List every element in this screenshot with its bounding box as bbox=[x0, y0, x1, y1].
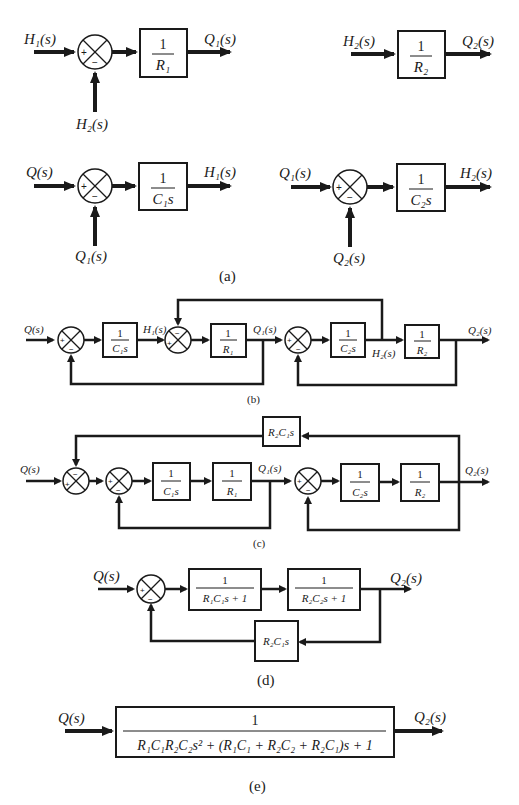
svg-text:1: 1 bbox=[225, 327, 231, 339]
svg-text:R₂C₁s: R₂C₁s bbox=[267, 426, 294, 438]
svg-text:R₁C₁R₂C₂s² + (R₁C₁ + R₂C₂ + R₂: R₁C₁R₂C₂s² + (R₁C₁ + R₂C₂ + R₂C₁)s + 1 bbox=[136, 738, 372, 754]
summing-junction: + − bbox=[63, 468, 89, 494]
svg-text:1: 1 bbox=[321, 574, 327, 586]
svg-text:1: 1 bbox=[418, 39, 425, 54]
panel-a: H₁(s) + − H₂(s) 1 R₁ Q₁(s) H₂(s) 1 bbox=[23, 29, 494, 285]
svg-text:−: − bbox=[92, 57, 98, 68]
svg-text:−: − bbox=[73, 470, 78, 479]
svg-text:R₂: R₂ bbox=[416, 344, 428, 356]
svg-text:1: 1 bbox=[222, 574, 228, 586]
signal-label: Q(s) bbox=[58, 710, 85, 727]
signal-label: Q₂(s) bbox=[414, 709, 446, 726]
signal-label: H₂(s) bbox=[342, 33, 375, 50]
summing-junction: + − bbox=[333, 170, 367, 204]
signal-label: Q₂(s) bbox=[462, 33, 494, 50]
svg-text:1: 1 bbox=[117, 327, 123, 339]
svg-text:1: 1 bbox=[345, 327, 351, 339]
svg-text:C₁s: C₁s bbox=[112, 342, 127, 354]
svg-text:+: + bbox=[81, 47, 87, 58]
signal-label: Q₁(s) bbox=[279, 165, 311, 182]
panel-a-block-1: H₁(s) + − H₂(s) 1 R₁ Q₁(s) bbox=[23, 29, 236, 133]
svg-text:+: + bbox=[140, 586, 145, 595]
panel-e: Q(s) 1 R₁C₁R₂C₂s² + (R₁C₁ + R₂C₂ + R₂C₁)… bbox=[58, 707, 446, 795]
svg-text:+: + bbox=[167, 339, 172, 348]
signal-label: H₂(s) bbox=[75, 116, 108, 133]
svg-text:+: + bbox=[108, 477, 113, 486]
svg-text:+: + bbox=[60, 336, 65, 345]
svg-text:1: 1 bbox=[168, 467, 174, 479]
summing-junction: + − bbox=[295, 468, 321, 495]
signal-label: H₂(s) bbox=[459, 165, 492, 182]
panel-a-block-4: Q₁(s) + − Q₂(s) 1 C₂s H₂(s) bbox=[279, 164, 492, 267]
svg-text:+: + bbox=[287, 336, 292, 345]
svg-text:R₁: R₁ bbox=[155, 57, 170, 73]
svg-text:−: − bbox=[148, 595, 153, 604]
svg-text:−: − bbox=[296, 345, 301, 354]
panel-caption: (a) bbox=[219, 268, 236, 285]
panel-a-block-2: H₂(s) 1 R₂ Q₂(s) bbox=[342, 31, 494, 78]
svg-text:C₂s: C₂s bbox=[410, 192, 431, 208]
panel-a-block-3: Q(s) + − Q₁(s) 1 C₁s H₁(s) bbox=[26, 163, 236, 265]
summing-junction: + − bbox=[165, 327, 191, 353]
svg-text:1: 1 bbox=[419, 328, 425, 340]
svg-text:+: + bbox=[81, 181, 87, 192]
svg-text:+: + bbox=[297, 477, 302, 486]
summing-junction: + − bbox=[78, 35, 112, 69]
svg-text:−: − bbox=[175, 329, 180, 338]
svg-text:−: − bbox=[306, 486, 311, 495]
svg-text:C₂s: C₂s bbox=[352, 486, 367, 498]
svg-text:−: − bbox=[347, 192, 353, 203]
signal-label: Q₁(s) bbox=[204, 31, 236, 48]
summing-junction: + − bbox=[106, 468, 132, 495]
panel-caption: (e) bbox=[249, 778, 266, 795]
block-diagram-figure: H₁(s) + − H₂(s) 1 R₁ Q₁(s) H₂(s) 1 bbox=[0, 0, 519, 805]
svg-text:R₁: R₁ bbox=[226, 485, 238, 497]
panel-caption: (d) bbox=[257, 672, 275, 689]
signal-label: Q₁(s) bbox=[258, 462, 282, 475]
svg-text:C₂s: C₂s bbox=[340, 342, 355, 354]
signal-label: Q₁(s) bbox=[75, 248, 107, 265]
panel-d: Q(s) + − 1 R₁C₁s + 1 1 R₂C₂s + 1 Q₂(s) R… bbox=[93, 568, 422, 689]
signal-label: Q₂(s) bbox=[465, 464, 489, 477]
signal-label: Q(s) bbox=[24, 323, 44, 336]
signal-label: Q(s) bbox=[26, 164, 53, 181]
svg-text:C₁s: C₁s bbox=[163, 485, 178, 497]
signal-label: Q₂(s) bbox=[390, 570, 422, 587]
summing-junction: + − bbox=[58, 327, 84, 354]
signal-label: Q₂(s) bbox=[333, 250, 365, 267]
svg-text:1: 1 bbox=[229, 467, 235, 479]
summing-junction: + − bbox=[78, 169, 112, 203]
panel-caption: (b) bbox=[247, 393, 260, 406]
signal-label: H₁(s) bbox=[203, 164, 236, 181]
svg-text:−: − bbox=[92, 191, 98, 202]
svg-text:1: 1 bbox=[160, 171, 167, 186]
svg-text:1: 1 bbox=[357, 468, 363, 480]
panel-caption: (c) bbox=[253, 537, 266, 550]
svg-text:R₂: R₂ bbox=[414, 486, 426, 498]
signal-label: H₁(s) bbox=[142, 323, 167, 336]
svg-text:+: + bbox=[65, 480, 70, 489]
signal-label: Q(s) bbox=[93, 568, 120, 585]
svg-text:1: 1 bbox=[252, 713, 259, 728]
svg-text:R₁C₁s + 1: R₁C₁s + 1 bbox=[202, 592, 247, 604]
panel-b: Q(s) + − 1 C₁s H₁(s) + − 1 R₁ Q₁(s) bbox=[24, 300, 492, 406]
svg-text:+: + bbox=[336, 182, 342, 193]
signal-label: H₁(s) bbox=[23, 31, 56, 48]
svg-text:1: 1 bbox=[417, 468, 423, 480]
summing-junction: + − bbox=[137, 575, 165, 604]
svg-text:1: 1 bbox=[418, 172, 425, 187]
svg-text:R₂C₂s + 1: R₂C₂s + 1 bbox=[301, 592, 346, 604]
svg-text:1: 1 bbox=[160, 37, 167, 52]
signal-label: Q(s) bbox=[20, 463, 40, 476]
summing-junction: + − bbox=[285, 327, 311, 354]
svg-text:−: − bbox=[116, 486, 121, 495]
panel-c: Q(s) + − + − 1 C₁s 1 R₁ Q₁(s) + bbox=[20, 417, 489, 550]
signal-label: Q₂(s) bbox=[468, 324, 492, 337]
svg-text:R₁: R₁ bbox=[222, 343, 234, 355]
svg-text:C₁s: C₁s bbox=[152, 191, 173, 207]
svg-text:R₂: R₂ bbox=[413, 59, 428, 75]
signal-label: Q₁(s) bbox=[253, 323, 277, 336]
svg-text:−: − bbox=[69, 345, 74, 354]
svg-text:R₂C₁s: R₂C₁s bbox=[262, 635, 289, 647]
signal-label: H₂(s) bbox=[371, 347, 396, 360]
